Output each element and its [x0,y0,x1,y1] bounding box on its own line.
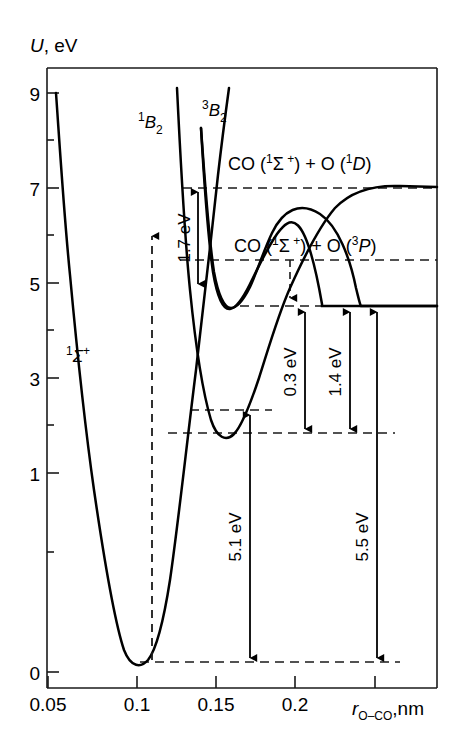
annotation-1-4-ev-label: 1.4 eV [326,347,345,397]
y-tick-label: 7 [29,179,40,200]
y-axis-title-unit: , eV [44,35,78,56]
x-axis-title-unit: ,nm [392,698,424,719]
annotation-1-7-ev-label: 1.7 eV [175,213,194,263]
potential-energy-diagram: 9 7 5 3 1 0 U, eV 0.05 0.1 0.15 0.2 rO–C… [0,0,462,753]
x-tick-label: 0.2 [282,694,308,715]
annotation-5-1-ev-label: 5.1 eV [226,512,245,562]
y-tick-label: 3 [29,369,40,390]
figure-background [0,0,462,753]
y-tick-label: 0 [29,663,40,684]
y-tick-label: 5 [29,274,40,295]
x-tick-label: 0.1 [124,694,150,715]
annotation-5-5-ev-label: 5.5 eV [353,512,372,562]
y-axis-title: U, eV [30,35,78,56]
y-tick-label: 9 [29,84,40,105]
annotation-0-3-ev-label: 0.3 eV [281,347,300,397]
x-tick-label: 0.15 [198,694,235,715]
svg-text:U, eV: U, eV [30,35,78,56]
x-axis-title-sub: O–CO [358,709,392,723]
y-axis-title-var: U [30,35,44,56]
y-tick-label: 1 [29,464,40,485]
x-tick-label: 0.05 [30,694,67,715]
